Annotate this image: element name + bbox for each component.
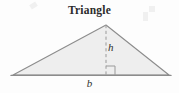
- triangle-shape: [13, 25, 169, 75]
- height-label: h: [108, 42, 114, 53]
- triangle-figure: Triangle h b: [0, 0, 179, 93]
- base-label: b: [0, 78, 179, 89]
